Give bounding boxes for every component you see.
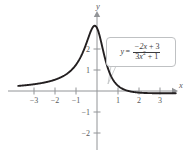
equation-fraction: −2x + 3 3x2 + 1 xyxy=(132,43,161,61)
y-tick-label--2: −2 xyxy=(81,129,90,138)
x-tick-label-1: 1 xyxy=(116,96,120,105)
y-axis-label: y xyxy=(95,1,100,11)
x-tick-label--3: −3 xyxy=(30,96,39,105)
y-tick-label-1: 1 xyxy=(86,66,90,75)
equation-text: y = −2x + 3 3x2 + 1 xyxy=(120,43,161,61)
x-axis-label: x xyxy=(178,80,183,90)
y-tick-label-2: 2 xyxy=(86,45,90,54)
y-tick-label--1: −1 xyxy=(81,108,90,117)
x-tick-label-3: 3 xyxy=(158,96,162,105)
x-tick-label--1: −1 xyxy=(72,96,81,105)
equation-equals: = xyxy=(126,48,131,56)
plot-canvas: −3 −2 −1 1 2 3 1 2 −1 −2 x y xyxy=(0,0,188,158)
x-tick-label-2: 2 xyxy=(137,96,141,105)
x-tick-label--2: −2 xyxy=(51,96,60,105)
equation-lhs: y xyxy=(120,48,124,56)
function-graph-figure: −3 −2 −1 1 2 3 1 2 −1 −2 x y y = −2x + 3… xyxy=(0,0,188,158)
y-axis-arrow xyxy=(94,11,100,17)
equation-numerator: −2x + 3 xyxy=(132,43,161,52)
equation-callout: y = −2x + 3 3x2 + 1 xyxy=(106,37,176,67)
equation-denominator: 3x2 + 1 xyxy=(133,52,160,62)
